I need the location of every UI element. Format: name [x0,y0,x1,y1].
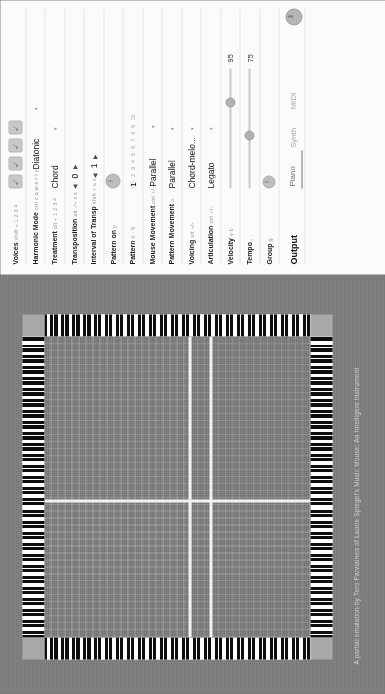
control-widget-voicing: Chord-melo...▾ [186,8,196,188]
voice-1-toggle[interactable]: ✓ [8,174,22,188]
pattern-number-scale[interactable]: 12345678910 [129,113,136,188]
tempo-value: 75 [245,48,254,62]
control-label-pattern-on: Pattern onp [109,188,117,264]
transposition-stepper[interactable]: ◀0▶ [69,163,79,188]
corner-bottom-right [310,314,332,336]
keyboard-strip-left[interactable] [44,637,310,659]
music-mouse-instrument[interactable] [22,314,332,659]
voice-4-toggle[interactable]: ✓ [8,120,22,134]
note-grid[interactable] [44,336,310,637]
control-widget-tempo: 75 [245,8,254,188]
control-widget-transposition: ◀0▶ [69,8,79,188]
control-widget-treatment: Chord▾ [49,8,59,188]
label-text: Transposition [70,218,77,264]
pattern-option-4[interactable]: 4 [129,159,135,163]
pattern-option-6[interactable]: 6 [129,145,135,149]
selected-value: Parallel [166,160,176,188]
control-row-voicing: Voicingalt +/-Chord-melo...▾ [182,8,202,264]
label-text: Voices [11,242,18,264]
slider-track[interactable] [229,68,231,188]
output-tabs: PianoSynthMIDI [284,8,302,188]
corner-top-left [22,637,44,659]
check-icon: ✓ [9,141,21,149]
slider-track[interactable] [248,68,250,188]
control-label-tempo: Tempo, . [245,188,253,264]
velocity-slider[interactable]: 95 [225,8,234,188]
pattern-option-2[interactable]: 2 [129,173,135,177]
control-label-pattern: Pattern0 - 9 [128,188,136,264]
control-label-treatment: Treatmentalt + 1 2 3 4 [50,188,58,264]
control-label-voices: Voicesshift + 1 2 3 4 [11,188,19,264]
chevron-down-icon: ▾ [207,126,213,129]
chevron-down-icon: ▾ [32,107,38,110]
output-volume-knob[interactable] [285,8,302,25]
pattern-option-3[interactable]: 3 [129,166,135,170]
treatment-select[interactable]: Chord▾ [49,126,59,188]
pattern-option-10[interactable]: 10 [129,113,135,120]
pattern-option-1[interactable]: 1 [129,180,136,188]
pattern-movement-select[interactable]: Parallel▾ [166,126,176,188]
control-label-harmonic-mode: Harmonic Modectrl c q w e r t y [31,169,39,264]
shortcut-hint: g [266,238,272,241]
shortcut-hint: alt + 1 2 3 4 [51,197,57,229]
tab-synth[interactable]: Synth [285,111,302,149]
increment-icon[interactable]: ▶ [90,153,97,158]
control-widget-harmonic-mode: Diatonic▾ [30,8,40,169]
articulation-select[interactable]: Legato▾ [205,126,215,188]
app-stage: A partial emulation by Tero Parviainen o… [0,0,385,694]
label-text: Articulation [206,225,213,264]
slider-thumb[interactable] [225,97,235,107]
stepper-value: 0 [69,173,79,178]
control-widget-pattern-movement: Parallel▾ [166,8,176,188]
control-widget-interval-of-transp: ◀1▶ [88,8,98,178]
pattern-on-knob[interactable] [105,173,120,188]
pattern-option-8[interactable]: 8 [129,131,135,135]
label-text: Interval of Transp [89,206,96,264]
selected-value: Parallel [147,158,157,186]
stepper-value: 1 [88,163,98,168]
shortcut-hint: , . [246,234,252,239]
harmonic-mode-select[interactable]: Diatonic▾ [30,107,40,169]
chevron-down-icon: ▾ [51,126,57,129]
pattern-option-7[interactable]: 7 [129,138,135,142]
label-text: Mouse Movement [148,205,155,264]
group-knob[interactable] [262,175,275,188]
voice-2-toggle[interactable]: ✓ [8,156,22,170]
shortcut-hint: alt +/- [188,222,194,237]
crosshair-vertical [44,499,310,502]
mouse-movement-select[interactable]: Parallel▾ [147,124,157,186]
shortcut-hint: v b [227,228,233,236]
shortcut-hint: shift + 1 2 3 4 [12,204,18,240]
label-text: Harmonic Mode [31,211,38,264]
keyboard-strip-bottom[interactable] [310,336,332,637]
label-text: Pattern Movement [167,203,174,264]
tempo-slider[interactable]: 75 [245,8,254,188]
control-label-pattern-movement: Pattern Movemento [167,188,175,264]
control-row-pattern-movement: Pattern MovementoParallel▾ [162,8,182,264]
increment-icon[interactable]: ▶ [70,163,77,168]
voicing-select[interactable]: Chord-melo...▾ [186,126,196,188]
pattern-option-9[interactable]: 9 [129,124,135,128]
voice-3-toggle[interactable]: ✓ [8,138,22,152]
control-row-tempo: Tempo, .75 [240,8,260,264]
interval-of-transp-stepper[interactable]: ◀1▶ [88,153,98,178]
keyboard-strip-top[interactable] [22,336,44,637]
control-row-articulation: Articulationctrl +/-Legato▾ [201,8,221,264]
control-row-velocity: Velocityv b95 [221,8,241,264]
keyboard-strip-right[interactable] [44,314,310,336]
tab-piano[interactable]: Piano [284,150,302,188]
control-widget-pattern: 12345678910 [129,8,136,188]
shortcut-hint: shift + a s [90,178,96,204]
decrement-icon[interactable]: ◀ [90,173,97,178]
control-row-harmonic-mode: Harmonic Modectrl c q w e r t yDiatonic▾ [26,8,46,264]
control-widget-mouse-movement: Parallel▾ [147,8,157,186]
pattern-option-5[interactable]: 5 [129,152,135,156]
check-icon: ✓ [9,123,21,131]
decrement-icon[interactable]: ◀ [70,183,77,188]
slider-thumb[interactable] [244,130,254,140]
control-row-pattern-on: Pattern onp [104,8,124,264]
tab-midi[interactable]: MIDI [285,76,302,111]
output-row: OutputPianoSynthMIDI [279,8,305,264]
check-icon: ✓ [9,159,21,167]
crosshair-horizontal-1 [188,336,191,637]
